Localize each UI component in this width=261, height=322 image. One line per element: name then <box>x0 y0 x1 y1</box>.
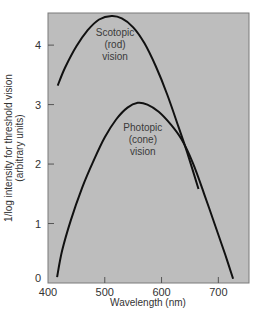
y-tick-label: 4 <box>35 39 41 51</box>
svg-text:1/log intensity for threshold: 1/log intensity for threshold vision <box>3 74 14 222</box>
annotation-text: (cone) <box>129 134 157 145</box>
annotation-text: vision <box>102 51 128 62</box>
svg-text:(arbitrary units): (arbitrary units) <box>14 114 25 181</box>
y-tick-label: 1 <box>35 218 41 230</box>
y-tick-label: 3 <box>35 99 41 111</box>
annotation-text: Photopic <box>123 122 162 133</box>
y-tick-label: 0 <box>35 272 41 284</box>
spectral-sensitivity-chart: 01234 400500600700 Scotopic(rod)visionPh… <box>0 0 261 322</box>
x-tick-label: 400 <box>39 286 57 298</box>
x-tick-label: 700 <box>209 286 227 298</box>
annotation-text: (rod) <box>104 39 125 50</box>
x-axis-label: Wavelength (nm) <box>110 297 186 308</box>
annotation-text: Scotopic <box>96 27 134 38</box>
y-axis-label: 1/log intensity for threshold vision (ar… <box>3 74 25 222</box>
annotation-text: vision <box>130 146 156 157</box>
y-tick-label: 2 <box>35 158 41 170</box>
